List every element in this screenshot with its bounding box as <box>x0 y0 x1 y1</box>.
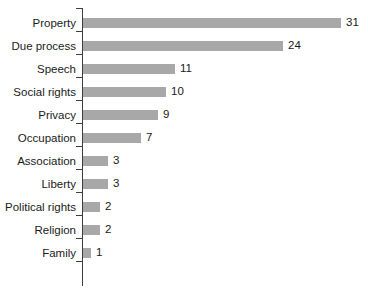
bar-chart: Property31Due process24Speech11Social ri… <box>0 0 368 300</box>
axis-tick <box>76 8 83 9</box>
bar-row: Liberty3 <box>0 172 368 195</box>
category-label: Speech <box>37 62 76 75</box>
bar <box>83 87 166 97</box>
bar <box>83 156 108 166</box>
bar-row: Social rights10 <box>0 80 368 103</box>
bar-row: Religion2 <box>0 218 368 241</box>
axis-tick <box>76 192 83 193</box>
axis-tick <box>76 169 83 170</box>
bar-value-label: 7 <box>146 131 152 144</box>
bar-row: Political rights2 <box>0 195 368 218</box>
bar-row: Occupation7 <box>0 126 368 149</box>
axis-tick <box>76 77 83 78</box>
bar-value-label: 2 <box>105 223 111 236</box>
bar-row: Association3 <box>0 149 368 172</box>
category-label: Political rights <box>5 200 76 213</box>
plot-area: Property31Due process24Speech11Social ri… <box>0 0 368 300</box>
category-label: Family <box>42 246 76 259</box>
axis-tick <box>76 238 83 239</box>
category-label: Religion <box>34 223 76 236</box>
bar-row: Privacy9 <box>0 103 368 126</box>
category-label: Occupation <box>18 131 76 144</box>
bar-value-label: 24 <box>288 39 301 52</box>
bar-value-label: 11 <box>180 62 192 75</box>
bar-value-label: 3 <box>113 154 119 167</box>
bar <box>83 202 100 212</box>
category-label: Association <box>17 154 76 167</box>
bar-row: Due process24 <box>0 34 368 57</box>
bar-and-value: 9 <box>83 110 169 120</box>
bar <box>83 225 100 235</box>
bar <box>83 110 158 120</box>
bar <box>83 133 141 143</box>
bar-and-value: 11 <box>83 64 192 74</box>
bar-row: Property31 <box>0 11 368 34</box>
bar-value-label: 1 <box>96 246 102 259</box>
bar-and-value: 3 <box>83 156 119 166</box>
category-label: Social rights <box>13 85 76 98</box>
category-label: Privacy <box>38 108 76 121</box>
bar-row: Speech11 <box>0 57 368 80</box>
bar-and-value: 1 <box>83 248 102 258</box>
bar <box>83 18 341 28</box>
bar-value-label: 9 <box>163 108 169 121</box>
bar-and-value: 7 <box>83 133 152 143</box>
axis-tick <box>76 31 83 32</box>
bar-value-label: 3 <box>113 177 119 190</box>
bar-and-value: 24 <box>83 41 301 51</box>
axis-tick <box>76 100 83 101</box>
bar-and-value: 2 <box>83 225 111 235</box>
bar-and-value: 3 <box>83 179 119 189</box>
bar-value-label: 31 <box>346 16 359 29</box>
axis-tick <box>76 146 83 147</box>
bar-value-label: 10 <box>171 85 184 98</box>
axis-tick <box>76 123 83 124</box>
bar <box>83 248 91 258</box>
bar <box>83 179 108 189</box>
bar <box>83 64 175 74</box>
category-label: Due process <box>11 39 76 52</box>
axis-tick <box>76 261 83 262</box>
bar-row: Family1 <box>0 241 368 264</box>
axis-tick <box>76 215 83 216</box>
category-label: Property <box>33 16 76 29</box>
bar-and-value: 10 <box>83 87 184 97</box>
bar-value-label: 2 <box>105 200 111 213</box>
bar-and-value: 31 <box>83 18 359 28</box>
axis-tick <box>76 54 83 55</box>
category-label: Liberty <box>41 177 76 190</box>
bar <box>83 41 283 51</box>
bar-and-value: 2 <box>83 202 111 212</box>
